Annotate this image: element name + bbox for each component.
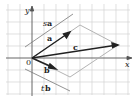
- y-axis-label: y: [24, 6, 30, 15]
- vector-a-label: a: [47, 33, 52, 43]
- vector-a-arrow-icon: [64, 32, 71, 38]
- vector-b-label: b: [44, 65, 50, 75]
- x-axis-label: x: [125, 60, 130, 69]
- axes: [6, 6, 132, 96]
- vector-diagram: y x 0 s a a b c t b: [0, 0, 134, 101]
- vector-b-arrow-icon: [49, 64, 57, 69]
- origin-label: 0: [26, 58, 31, 67]
- vector-c-arrow-icon: [112, 43, 118, 48]
- vector-c-label: c: [73, 42, 78, 52]
- y-axis-arrow-icon: [30, 6, 33, 11]
- line-sa-vector-label: a: [47, 18, 52, 28]
- line-tb-vector-label: b: [45, 83, 51, 93]
